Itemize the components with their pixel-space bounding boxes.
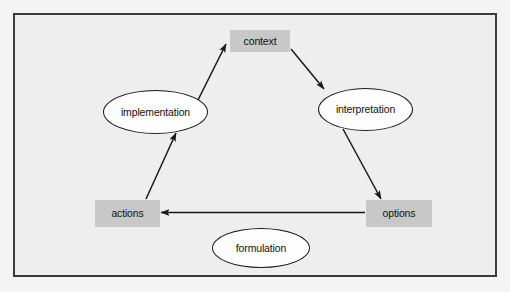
node-options[interactable]: options bbox=[366, 200, 432, 227]
edge-context-to-interpretation bbox=[291, 49, 324, 89]
node-implementation-label: implementation bbox=[121, 107, 190, 118]
diagram-canvas: context implementation interpretation ac… bbox=[0, 0, 510, 292]
node-formulation-label: formulation bbox=[236, 243, 286, 254]
node-actions-label: actions bbox=[111, 208, 143, 219]
node-implementation[interactable]: implementation bbox=[103, 90, 208, 134]
edge-implementation-to-context bbox=[196, 44, 226, 104]
node-interpretation-label: interpretation bbox=[336, 104, 395, 115]
node-context-label: context bbox=[244, 36, 277, 47]
edge-actions-to-implementation bbox=[146, 133, 176, 199]
node-options-label: options bbox=[383, 208, 416, 219]
node-interpretation[interactable]: interpretation bbox=[318, 88, 413, 131]
node-actions[interactable]: actions bbox=[95, 200, 160, 227]
edge-interpretation-to-options bbox=[343, 129, 381, 199]
node-context[interactable]: context bbox=[230, 30, 290, 52]
node-formulation[interactable]: formulation bbox=[212, 228, 310, 268]
